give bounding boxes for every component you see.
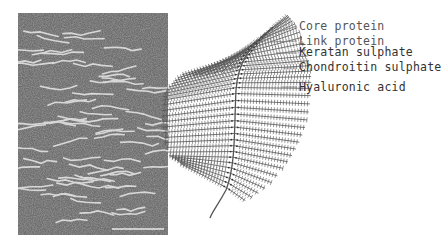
label-chondroitin-sulphate: Chondroitin sulphate (299, 60, 441, 74)
label-keratan-sulphate: Keratan sulphate (299, 45, 413, 59)
side-chain (171, 157, 233, 163)
label-hyaluronic-acid: Hyaluronic acid (299, 80, 406, 94)
side-chain (238, 77, 312, 79)
side-chain (235, 107, 308, 112)
side-chain (165, 140, 234, 143)
side-chain (162, 100, 236, 110)
side-chain (166, 146, 234, 148)
side-chain (235, 127, 303, 135)
label-core-protein: Core protein (299, 19, 384, 33)
